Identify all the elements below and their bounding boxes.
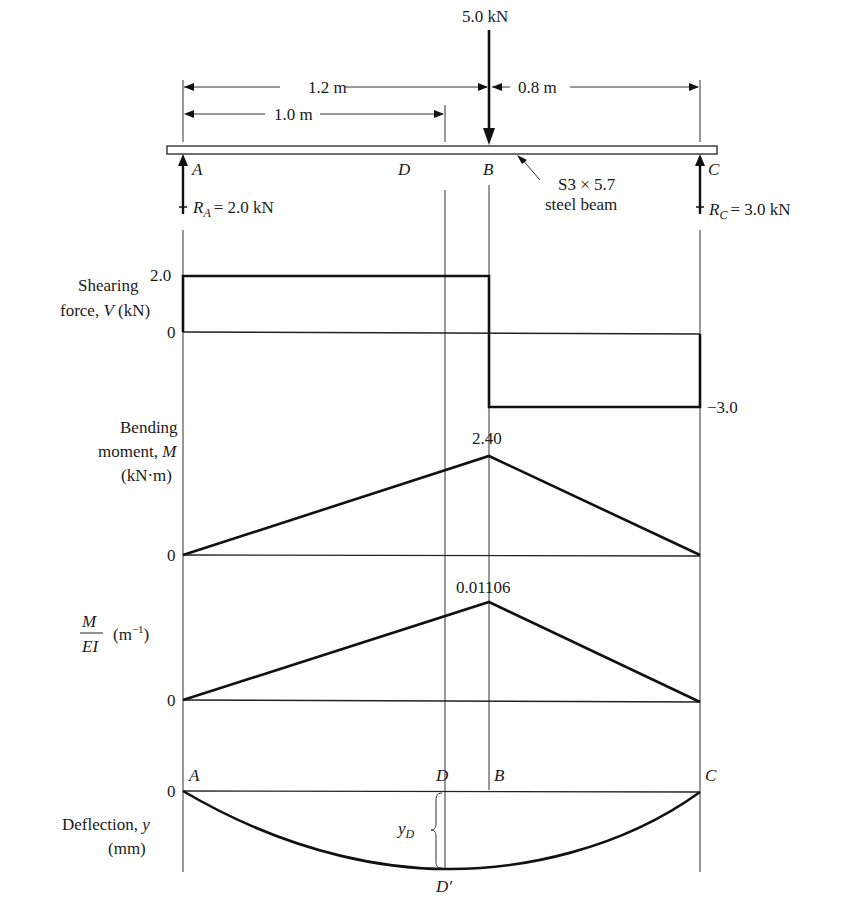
- brace-icon: [431, 793, 442, 868]
- shear-diagram: Shearing force, V (kN) 2.0 0 −3.0: [60, 266, 738, 417]
- reaction-A-arrow-icon: [178, 154, 188, 166]
- moment-label-1: Bending: [120, 418, 178, 437]
- point-B-label: B: [483, 160, 494, 179]
- moment-label-3: (kN·m): [121, 466, 172, 485]
- shear-baseline: [183, 332, 700, 334]
- curvature-curve: [183, 602, 700, 702]
- shear-curve: [183, 276, 700, 407]
- point-D-label: D: [397, 160, 411, 179]
- curvature-unit: (m−1): [113, 623, 149, 644]
- point-A-label: A: [191, 160, 203, 179]
- dimension-lines: 1.2 m 0.8 m 1.0 m: [184, 78, 698, 124]
- curvature-baseline: [183, 700, 700, 702]
- beam-diagram: 1.2 m 0.8 m 1.0 m 5.0 kN A D B C S3 × 5.…: [0, 0, 842, 923]
- dim-AB-label: 1.2 m: [308, 78, 347, 97]
- load-arrow-icon: [483, 128, 495, 145]
- curvature-diagram: M EI (m−1) 0 0.01106: [80, 578, 700, 710]
- deflection-baseline: [183, 791, 700, 792]
- shear-tick-top: 2.0: [150, 266, 171, 285]
- shear-label-1: Shearing: [78, 276, 139, 295]
- section-label: S3 × 5.7: [558, 175, 616, 194]
- section-sublabel: steel beam: [545, 195, 617, 214]
- steel-beam: [167, 146, 717, 154]
- curvature-num: M: [81, 612, 97, 631]
- yD-label: yD: [396, 819, 415, 841]
- moment-baseline: [183, 555, 700, 556]
- D-prime-label: D′: [435, 877, 452, 896]
- moment-tick-zero: 0: [167, 546, 176, 565]
- load-label: 5.0 kN: [462, 7, 508, 26]
- moment-curve: [183, 456, 700, 555]
- shear-tick-bottom: −3.0: [707, 398, 738, 417]
- moment-label-2: moment, M: [98, 442, 177, 461]
- reaction-C-label: RC= 3.0 kN: [708, 200, 791, 222]
- dim-BC-label: 0.8 m: [518, 78, 557, 97]
- curvature-tick-zero: 0: [167, 691, 176, 710]
- shear-tick-zero: 0: [167, 323, 176, 342]
- deflection-point-B: B: [494, 766, 505, 785]
- deflection-label-2: (mm): [108, 839, 146, 858]
- moment-diagram: Bending moment, M (kN·m) 0 2.40: [98, 418, 700, 565]
- section-callout: S3 × 5.7 steel beam: [517, 155, 617, 214]
- deflection-tick-zero: 0: [167, 782, 176, 801]
- deflection-point-D: D: [435, 766, 449, 785]
- moment-peak-label: 2.40: [472, 429, 502, 448]
- curvature-den: EI: [81, 637, 99, 656]
- dim-AD-label: 1.0 m: [274, 105, 313, 124]
- reaction-A-label: RA= 2.0 kN: [192, 198, 274, 220]
- arrow-head-icon: [184, 110, 194, 118]
- deflection-point-C: C: [705, 766, 717, 785]
- shear-label-2: force, V (kN): [60, 301, 150, 320]
- deflection-diagram: A D B C 0 Deflection, y (mm) yD D′: [62, 766, 717, 896]
- deflection-label-1: Deflection, y: [62, 815, 150, 834]
- arrow-head-icon: [492, 83, 502, 91]
- deflection-point-A: A: [188, 766, 200, 785]
- curvature-peak-label: 0.01106: [456, 578, 511, 597]
- arrow-head-icon: [184, 83, 194, 91]
- deflection-curve: [183, 791, 700, 869]
- applied-load: 5.0 kN: [462, 7, 508, 145]
- reaction-C-arrow-icon: [695, 154, 705, 166]
- point-C-label: C: [708, 160, 720, 179]
